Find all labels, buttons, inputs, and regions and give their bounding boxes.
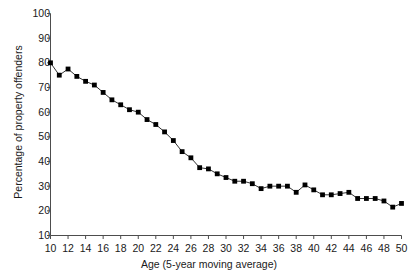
data-point-marker: [390, 205, 395, 210]
data-point-marker: [399, 201, 404, 206]
chart-figure: Percentage of property offenders 1020304…: [0, 0, 418, 278]
data-point-marker: [153, 122, 158, 127]
data-point-marker: [101, 90, 106, 95]
data-point-marker: [320, 192, 325, 197]
data-point-marker: [127, 107, 132, 112]
data-point-marker: [118, 102, 123, 107]
data-point-marker: [48, 60, 53, 65]
data-point-marker: [171, 138, 176, 143]
data-point-marker: [355, 196, 360, 201]
data-point-marker: [145, 117, 150, 122]
data-point-marker: [338, 191, 343, 196]
data-point-marker: [250, 181, 255, 186]
data-point-marker: [74, 74, 79, 79]
data-point-marker: [57, 73, 62, 78]
data-point-marker: [267, 184, 272, 189]
data-point-marker: [215, 171, 220, 176]
data-point-marker: [329, 192, 334, 197]
series-line: [51, 63, 402, 207]
line-plot: [0, 0, 418, 278]
x-axis-title: Age (5-year moving average): [0, 258, 418, 270]
data-point-marker: [285, 184, 290, 189]
data-point-marker: [364, 196, 369, 201]
data-point-marker: [373, 196, 378, 201]
data-point-marker: [382, 199, 387, 204]
data-point-marker: [197, 165, 202, 170]
data-point-marker: [180, 149, 185, 154]
data-point-marker: [206, 167, 211, 172]
data-point-marker: [136, 110, 141, 115]
data-point-marker: [303, 183, 308, 188]
data-point-marker: [83, 79, 88, 84]
data-point-marker: [311, 187, 316, 192]
data-point-marker: [162, 130, 167, 135]
data-point-marker: [232, 179, 237, 184]
data-point-marker: [92, 83, 97, 88]
data-point-marker: [346, 190, 351, 195]
data-point-marker: [189, 155, 194, 160]
data-point-marker: [276, 184, 281, 189]
data-point-marker: [259, 186, 264, 191]
data-point-marker: [66, 67, 71, 72]
data-point-marker: [224, 175, 229, 180]
data-point-marker: [110, 97, 115, 102]
data-point-marker: [294, 190, 299, 195]
data-point-marker: [241, 179, 246, 184]
